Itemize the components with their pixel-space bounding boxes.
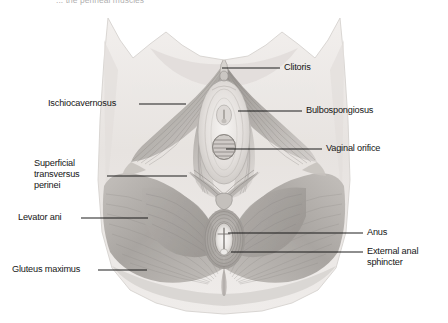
label-vaginal-orifice: Vaginal orifice bbox=[326, 143, 380, 154]
vaginal-orifice-structure bbox=[213, 135, 236, 160]
label-levator-ani: Levator ani bbox=[18, 212, 61, 223]
label-bulbospongiosus: Bulbospongiosus bbox=[306, 105, 373, 116]
figure-page: ... the perineal muscles bbox=[0, 0, 448, 323]
urethral-orifice bbox=[217, 105, 232, 125]
label-ischiocavernosus: Ischiocavernosus bbox=[48, 98, 116, 109]
label-anus: Anus bbox=[367, 227, 387, 238]
label-gluteus-maximus: Gluteus maximus bbox=[12, 264, 80, 275]
label-external-anal-sphincter: External anal sphincter bbox=[367, 246, 418, 268]
label-superficial-transversus-perinei: Superficial transversus perinei bbox=[34, 158, 79, 192]
vaginal-vestibule bbox=[198, 80, 250, 184]
label-clitoris: Clitoris bbox=[284, 62, 311, 73]
anus-structure bbox=[215, 223, 233, 255]
